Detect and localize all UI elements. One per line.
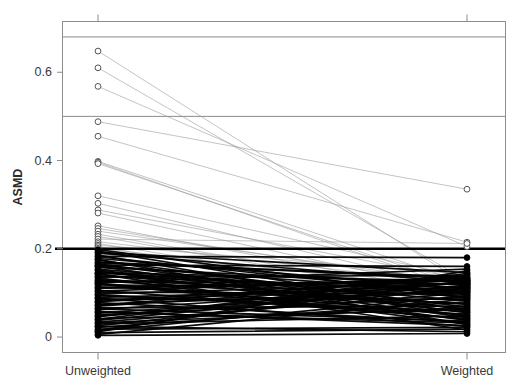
y-tick-label: 0.2 [35, 242, 52, 256]
data-point-filled [95, 332, 101, 338]
data-point-filled [95, 288, 101, 294]
data-point-filled [464, 320, 470, 326]
asmd-slope-plot: 00.20.40.6 UnweightedWeighted ASMD [0, 0, 519, 390]
data-point-open [95, 210, 101, 216]
data-point-filled [95, 271, 101, 277]
data-point-filled [95, 309, 101, 315]
data-point-filled [95, 280, 101, 286]
data-point-open [95, 83, 101, 89]
data-point-filled [95, 262, 101, 268]
x-tick-label: Weighted [441, 364, 494, 378]
chart-figure: 00.20.40.6 UnweightedWeighted ASMD [0, 0, 519, 390]
data-point-open [95, 193, 101, 199]
data-point-filled [95, 295, 101, 301]
data-point-filled [95, 302, 101, 308]
data-point-filled [464, 309, 470, 315]
data-point-open [95, 48, 101, 54]
data-point-filled [464, 255, 470, 261]
data-point-filled [464, 286, 470, 292]
data-point-open [95, 161, 101, 167]
y-tick-label: 0.6 [35, 65, 52, 79]
x-tick-label: Unweighted [65, 364, 131, 378]
data-point-open [464, 241, 470, 247]
data-point-open [95, 65, 101, 71]
data-point-filled [464, 327, 470, 333]
data-point-filled [95, 253, 101, 259]
data-point-filled [95, 317, 101, 323]
data-point-open [95, 200, 101, 206]
y-tick-label: 0 [45, 330, 52, 344]
y-axis-title: ASMD [11, 169, 25, 206]
data-point-open [464, 186, 470, 192]
data-point-open [95, 119, 101, 125]
data-point-open [95, 133, 101, 139]
data-point-filled [464, 266, 470, 272]
y-tick-label: 0.4 [35, 154, 52, 168]
